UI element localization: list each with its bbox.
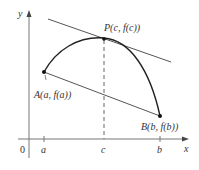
origin-label: 0 [20, 144, 25, 155]
pointer-a [45, 75, 46, 80]
y-axis-label: y [17, 8, 23, 19]
y-axis-arrow-icon [27, 10, 32, 17]
tick-label-c: c [101, 144, 106, 155]
label-point-p: P(c, f(c)) [103, 22, 141, 34]
label-point-a: A(a, f(a)) [33, 89, 72, 101]
tick-label-b: b [157, 144, 162, 155]
point-p [102, 37, 106, 41]
point-b [158, 114, 162, 118]
mvt-diagram: y x 0 a c b P(c, f(c)) A(a, f(a)) B(b, f… [0, 0, 199, 170]
x-axis-label: x [183, 143, 189, 154]
point-a [42, 70, 46, 74]
tick-label-a: a [41, 144, 46, 155]
x-axis-arrow-icon [182, 137, 189, 142]
function-curve [44, 38, 160, 116]
label-point-b: B(b, f(b)) [141, 121, 179, 133]
